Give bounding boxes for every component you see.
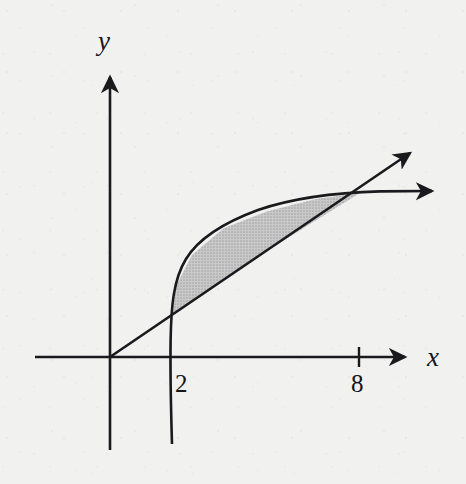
plot-canvas: [0, 0, 466, 484]
x-tick-label-2: 2: [175, 371, 188, 396]
straight-line-series: [110, 153, 410, 357]
math-figure: y x 2 8: [0, 0, 466, 484]
y-axis-label: y: [98, 28, 110, 55]
shaded-region-between-curves: [170, 193, 360, 452]
x-tick-label-8: 8: [351, 371, 364, 396]
x-axis-label: x: [427, 344, 439, 371]
